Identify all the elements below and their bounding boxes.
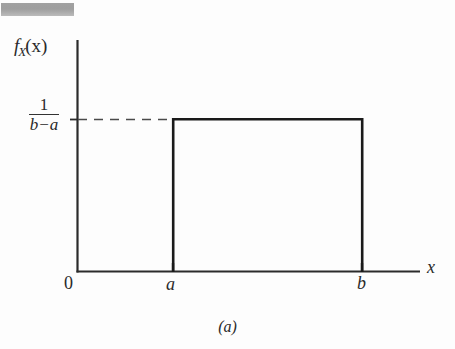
uniform-pdf-plot — [0, 0, 455, 349]
denominator-term-a: a — [50, 115, 59, 134]
denominator-term-b: b — [30, 115, 39, 134]
y-axis-label: fX(x) — [14, 36, 47, 58]
origin-label: 0 — [64, 274, 73, 292]
x-axis-tick-label-a: a — [166, 275, 175, 293]
figure-container: fX(x) 1 b−a 0 a b x (a) — [0, 0, 455, 349]
figure-caption: (a) — [0, 318, 455, 336]
x-axis-label: x — [427, 258, 435, 276]
fraction-one-over-b-minus-a: 1 b−a — [28, 96, 61, 133]
y-axis-label-argument: (x) — [25, 35, 47, 56]
x-axis-tick-label-b: b — [357, 274, 366, 292]
fraction-numerator: 1 — [28, 96, 61, 114]
y-axis-tick-label-height: 1 b−a — [16, 96, 72, 133]
uniform-density-curve — [173, 119, 362, 272]
minus-sign: − — [38, 115, 50, 134]
fraction-denominator: b−a — [28, 115, 61, 133]
